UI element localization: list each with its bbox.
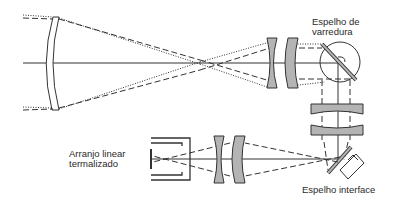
scan-mirror-label: Espelho de varredura: [312, 17, 360, 37]
ray-vert-left-2: [324, 142, 328, 170]
ray-in-top-dot: [23, 15, 53, 17]
scan-mirror-inner: [322, 44, 356, 80]
ray-in-bottom-dash: [23, 109, 53, 110]
relay-lens-2: [311, 125, 363, 135]
ray-in-top-dash: [23, 18, 53, 19]
detector-array-label: Arranjo linear termalizado: [69, 149, 126, 169]
scan-mirror-label-line2: varredura: [312, 27, 360, 37]
ray-conv-top-dash: [59, 19, 200, 60]
ray-bottom-2: [245, 157, 340, 176]
detector-array-label-line2: termalizado: [69, 159, 126, 169]
ray-conv-bot-dash: [59, 70, 200, 108]
relay-lens-1: [311, 104, 363, 114]
interface-mirror-label: Espelho interface: [302, 185, 375, 195]
ray-div-3: [200, 64, 270, 88]
ray-in-bottom-dot: [23, 107, 53, 108]
